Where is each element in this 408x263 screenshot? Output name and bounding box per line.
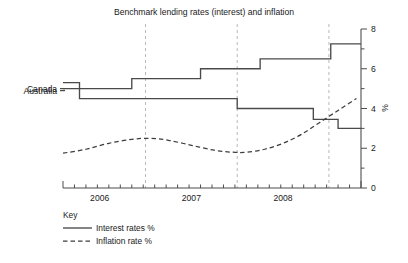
x-tick-label-2008: 2008: [273, 193, 292, 203]
key-title: Key: [63, 210, 78, 220]
series-line-australia: [63, 83, 361, 129]
benchmark-lending-rates-chart: Benchmark lending rates (interest) and i…: [0, 0, 408, 263]
series-line-inflation-rate: [63, 99, 356, 154]
x-tick-label-2006: 2006: [90, 193, 109, 203]
axes: [63, 29, 361, 188]
y-axis-tick-labels: 02468: [371, 24, 376, 193]
chart-key: Key Interest rates %Inflation rate %: [63, 210, 155, 246]
x-axis-tick-labels: 200620072008: [90, 193, 293, 203]
x-axis-ticks: [63, 181, 361, 188]
x-tick-label-2007: 2007: [182, 193, 201, 203]
y-tick-label-2: 2: [371, 143, 376, 153]
key-label-0: Interest rates %: [96, 223, 155, 233]
series-line-canada: [63, 44, 361, 89]
y-axis-ticks: [361, 29, 367, 188]
chart-title: Benchmark lending rates (interest) and i…: [114, 7, 294, 17]
key-entries: Interest rates %Inflation rate %: [63, 223, 155, 246]
series-callouts: CanadaAustralia: [24, 84, 65, 96]
chart-container: Benchmark lending rates (interest) and i…: [0, 0, 408, 263]
y-tick-label-8: 8: [371, 24, 376, 34]
y-tick-label-6: 6: [371, 64, 376, 74]
y-tick-label-4: 4: [371, 104, 376, 114]
data-series: [63, 44, 361, 153]
y-axis-title: %: [380, 104, 390, 112]
y-tick-label-0: 0: [371, 183, 376, 193]
series-callout-australia: Australia: [24, 86, 58, 96]
key-label-1: Inflation rate %: [96, 236, 152, 246]
